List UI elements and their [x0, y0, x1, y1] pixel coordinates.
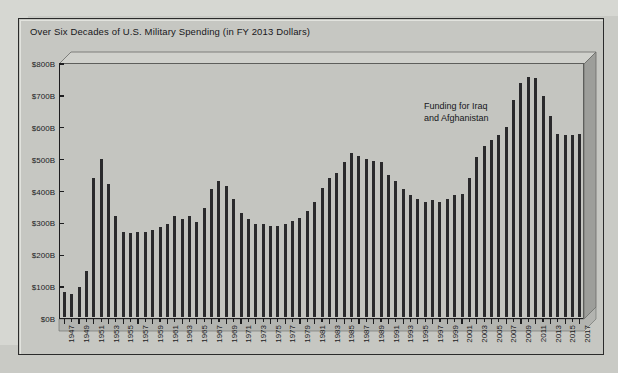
bar — [92, 178, 95, 317]
bar — [254, 224, 257, 317]
bar — [431, 200, 434, 317]
bar — [490, 140, 493, 317]
bar — [527, 77, 530, 318]
x-axis-tick-label: 1995 — [421, 325, 430, 343]
x-axis-tick — [226, 319, 227, 324]
x-axis-tick — [248, 319, 249, 322]
x-axis-tick-label: 1987 — [362, 325, 371, 343]
x-axis-tick — [373, 319, 374, 324]
x-axis-tick — [565, 319, 566, 324]
x-axis-tick-label: 2005 — [495, 325, 504, 343]
y-axis-tick-label: $500B — [19, 155, 55, 164]
bar — [453, 195, 456, 317]
bar — [321, 188, 324, 318]
bar — [188, 216, 191, 317]
bar — [276, 226, 279, 318]
x-axis-tick — [447, 319, 448, 324]
x-axis-tick-label: 1947 — [67, 325, 76, 343]
x-axis-tick — [240, 319, 241, 324]
bar — [402, 189, 405, 317]
x-axis-tick — [204, 319, 205, 322]
bar — [380, 162, 383, 317]
y-axis-tick-label: $100B — [19, 283, 55, 292]
bar — [151, 230, 154, 317]
bar — [571, 135, 574, 317]
bar — [542, 96, 545, 318]
page-background-top-band — [0, 0, 618, 16]
x-axis-tick — [358, 319, 359, 324]
x-axis-tick — [380, 319, 381, 322]
x-axis-tick — [403, 319, 404, 324]
bar — [365, 159, 368, 317]
x-axis-tick — [196, 319, 197, 324]
x-axis-tick — [101, 319, 102, 322]
x-axis-tick-label: 1963 — [185, 325, 194, 343]
x-axis-tick-label: 1997 — [436, 325, 445, 343]
x-axis-tick-label: 1993 — [406, 325, 415, 343]
x-axis-tick — [86, 319, 87, 322]
x-axis-tick — [115, 319, 116, 322]
x-axis-tick — [469, 319, 470, 322]
x-axis-tick — [321, 319, 322, 322]
x-axis-tick — [270, 319, 271, 324]
x-axis-tick — [211, 319, 212, 324]
x-axis-tick — [329, 319, 330, 324]
x-axis-tick — [307, 319, 308, 322]
x-axis-tick — [425, 319, 426, 322]
x-axis-tick — [344, 319, 345, 324]
x-axis-tick — [513, 319, 514, 322]
x-axis-tick — [137, 319, 138, 324]
x-axis-tick — [263, 319, 264, 322]
x-axis-tick-label: 2009 — [524, 325, 533, 343]
bar — [203, 208, 206, 317]
x-axis-tick — [542, 319, 543, 322]
bar — [549, 116, 552, 317]
x-axis-tick — [130, 319, 131, 322]
bar — [416, 199, 419, 318]
x-axis-tick — [557, 319, 558, 322]
x-axis-tick-label: 1983 — [333, 325, 342, 343]
y-axis-tick-label: $800B — [19, 60, 55, 69]
annotation-iraq-afghanistan: Funding for Iraq and Afghanistan — [424, 100, 489, 124]
bar — [409, 195, 412, 317]
x-axis-tick — [454, 319, 455, 322]
bar — [328, 178, 331, 317]
x-axis-tick-label: 1971 — [244, 325, 253, 343]
x-axis-tick — [174, 319, 175, 322]
annotation-line-2: and Afghanistan — [424, 112, 489, 124]
x-axis-tick — [535, 319, 536, 324]
x-axis-tick — [64, 319, 65, 324]
bar — [63, 292, 66, 317]
chart-panel: Over Six Decades of U.S. Military Spendi… — [18, 18, 604, 355]
x-axis-tick — [159, 319, 160, 322]
bar — [225, 186, 228, 317]
x-axis-tick-label: 1961 — [171, 325, 180, 343]
y-axis-tick-label: $300B — [19, 219, 55, 228]
x-axis-tick — [336, 319, 337, 322]
bar — [70, 294, 73, 318]
x-axis-tick — [145, 319, 146, 322]
x-axis-tick-label: 2003 — [480, 325, 489, 343]
bar — [269, 226, 272, 318]
x-axis-tick-label: 1975 — [274, 325, 283, 343]
x-axis-tick — [461, 319, 462, 324]
y-axis-tick-label: $700B — [19, 91, 55, 100]
bar — [173, 216, 176, 317]
bar — [100, 159, 103, 317]
x-axis-tick — [484, 319, 485, 322]
x-axis-tick-label: 1989 — [377, 325, 386, 343]
x-axis-tick-label: 1949 — [82, 325, 91, 343]
x-axis-ticks — [61, 319, 584, 324]
x-axis-tick — [528, 319, 529, 322]
x-axis-tick-label: 1979 — [303, 325, 312, 343]
x-axis-tick — [93, 319, 94, 324]
bar — [298, 218, 301, 318]
x-axis-tick-label: 1985 — [347, 325, 356, 343]
x-axis-tick — [255, 319, 256, 324]
x-axis-tick-label: 1991 — [392, 325, 401, 343]
x-axis-tick-label: 2013 — [554, 325, 563, 343]
x-axis-tick-label: 2007 — [509, 325, 518, 343]
bar — [144, 232, 147, 318]
x-axis-tick — [410, 319, 411, 322]
x-axis-tick-label: 1957 — [141, 325, 150, 343]
